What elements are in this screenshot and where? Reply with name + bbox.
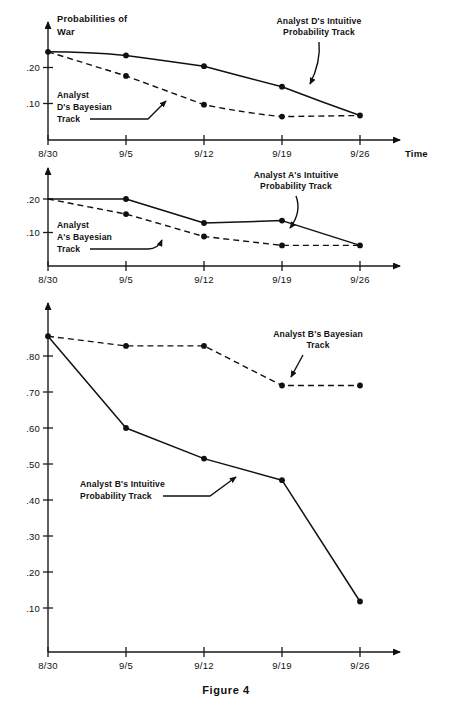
x-tick-label-d-3: 9/19 [272,148,291,159]
x-tick-label-b-2: 9/12 [194,660,213,671]
annotation-b-bayesian-leader [291,355,303,377]
annotation-a-intuitive-line1: Analyst A's Intuitive [254,170,339,180]
x-tick-label-a-1: 9/5 [119,274,133,285]
y-tick-label-a-20: .20 [26,194,40,205]
annotation-a-bayesian-line1: Analyst [57,220,89,230]
data-point-b-bayesian-4 [357,383,363,389]
chart-title-line2-d: War [57,27,75,37]
data-point-d-intuitive-4 [357,113,363,119]
data-point-d-bayesian-1 [123,73,129,79]
data-point-a-bayesian-2 [201,234,207,240]
data-point-b-bayesian-3 [279,383,285,389]
annotation-d-bayesian-line1: Analyst [57,90,89,100]
annotation-b-bayesian-line1: Analyst B's Bayesian [273,329,363,339]
y-tick-label-b-70: .70 [26,387,40,398]
data-point-a-bayesian-3 [279,243,285,249]
data-point-d-intuitive-3 [279,84,285,90]
data-point-a-intuitive-4 [357,243,363,249]
y-tick-label-b-10: .10 [26,603,40,614]
data-point-b-intuitive-4 [357,599,363,605]
x-tick-label-b-4: 9/26 [350,660,369,671]
annotation-d-intuitive-line1: Analyst D's Intuitive [277,16,362,26]
annotation-a-bayesian-line2: A's Bayesian [57,232,112,242]
annotation-b-intuitive-line2: Probability Track [80,491,152,501]
y-tick-label-b-50: .50 [26,459,40,470]
y-tick-label-b-60: .60 [26,423,40,434]
x-tick-label-d-2: 9/12 [194,148,213,159]
data-point-d-bayesian-2 [201,102,207,108]
x-axis-title-time: Time [405,148,428,159]
data-point-b-intuitive-0 [45,333,51,339]
data-point-b-bayesian-1 [123,343,129,349]
y-tick-label-b-80: .80 [26,351,40,362]
data-point-d-intuitive-1 [123,53,129,59]
x-tick-label-a-3: 9/19 [272,274,291,285]
annotation-b-intuitive-leader [163,477,236,496]
data-point-d-bayesian-3 [279,114,285,120]
series-b-intuitive-line [48,336,360,601]
figure-caption: Figure 4 [202,684,250,696]
x-tick-label-b-0: 8/30 [38,660,57,671]
x-tick-label-d-4: 9/26 [350,148,369,159]
annotation-d-bayesian-line3: Track [57,114,80,124]
y-tick-label-a-10: .10 [26,227,40,238]
chart-analyst-a: .20 .10 8/30 9/5 9/12 9/19 9/26 Analyst … [26,168,400,285]
annotation-b-intuitive-line1: Analyst B's Intuitive [80,479,165,489]
data-point-a-intuitive-1 [123,196,129,202]
data-point-b-intuitive-2 [201,456,207,462]
x-tick-label-a-2: 9/12 [194,274,213,285]
y-tick-label-d-20: .20 [26,62,40,73]
data-point-d-intuitive-0 [45,49,51,55]
annotation-d-intuitive-line2: Probability Track [283,27,355,37]
data-point-b-intuitive-1 [123,425,129,431]
data-point-a-intuitive-3 [279,218,285,224]
x-tick-label-b-1: 9/5 [119,660,133,671]
figure-4-svg: Probabilities of War .20 .10 8/30 9/5 9/… [0,0,453,717]
annotation-d-intuitive-leader [310,42,319,84]
x-tick-label-b-3: 9/19 [272,660,291,671]
y-tick-label-b-20: .20 [26,567,40,578]
data-point-b-intuitive-3 [279,477,285,483]
annotation-d-bayesian-line2: D's Bayesian [57,102,112,112]
chart-title-line1-d: Probabilities of [57,14,128,24]
annotation-a-intuitive-line2: Probability Track [260,181,332,191]
data-point-b-bayesian-2 [201,343,207,349]
y-tick-label-d-10: .10 [26,98,40,109]
figure-4-container: Probabilities of War .20 .10 8/30 9/5 9/… [0,0,453,717]
chart-analyst-d: Probabilities of War .20 .10 8/30 9/5 9/… [26,14,428,159]
y-tick-label-b-30: .30 [26,531,40,542]
data-point-a-bayesian-1 [123,211,129,217]
annotation-a-bayesian-line3: Track [57,244,80,254]
x-tick-label-d-1: 9/5 [119,148,133,159]
x-tick-label-d-0: 8/30 [38,148,57,159]
annotation-b-bayesian-line2: Track [306,340,329,350]
chart-analyst-b: .80 .70 .60 .50 .40 .30 .20 .10 8/30 9/5… [26,303,400,671]
y-tick-label-b-40: .40 [26,495,40,506]
data-point-a-intuitive-2 [201,220,207,226]
x-tick-label-a-4: 9/26 [350,274,369,285]
x-tick-label-a-0: 8/30 [38,274,57,285]
data-point-d-intuitive-2 [201,63,207,69]
